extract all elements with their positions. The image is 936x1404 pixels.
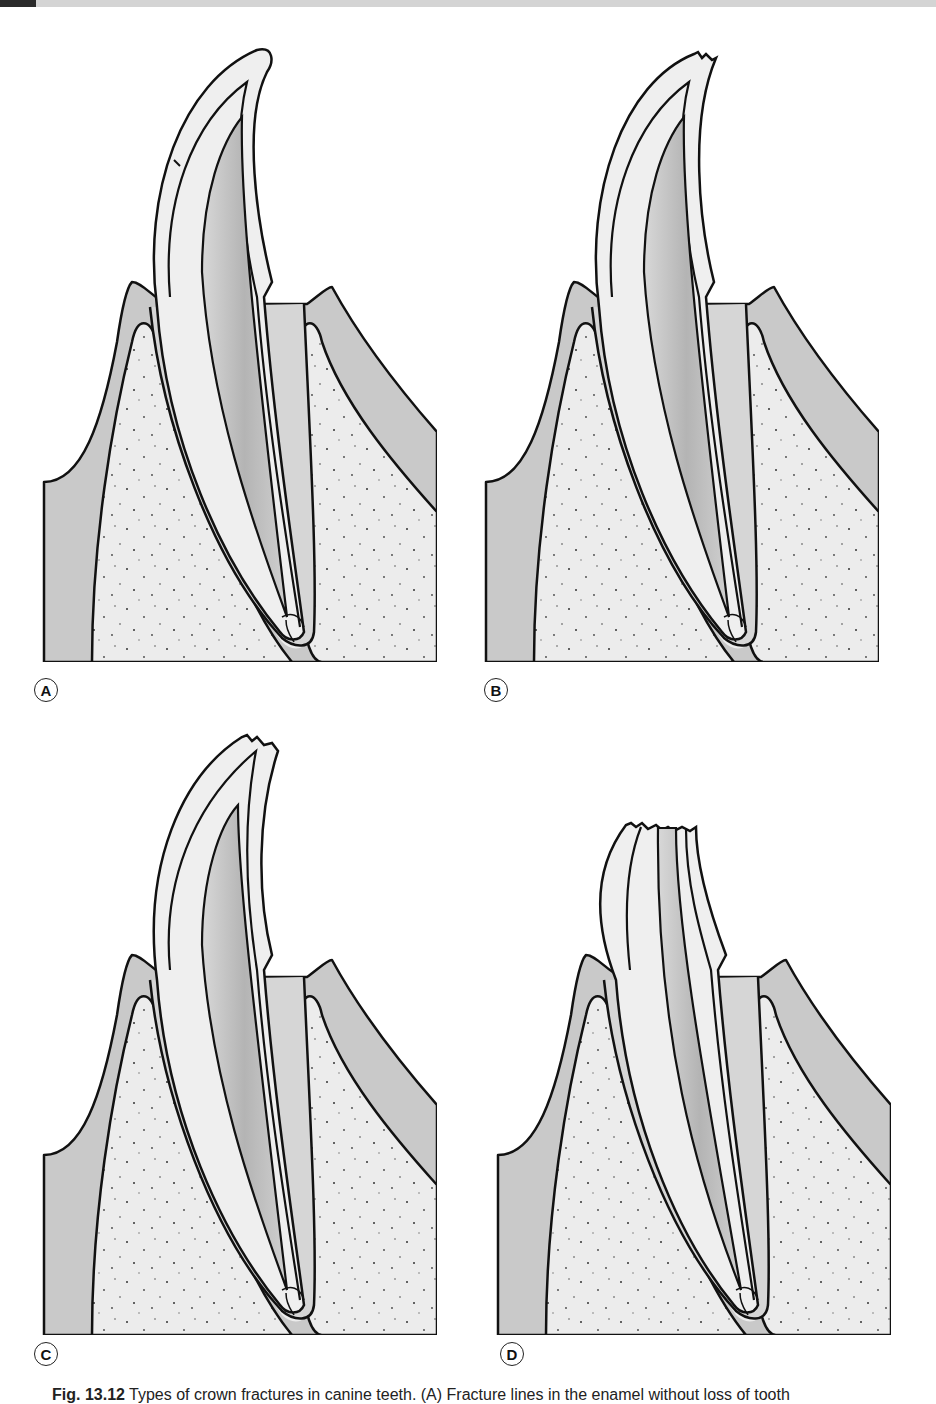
panel-label-a: A <box>34 678 58 702</box>
panel-label-d: D <box>500 1342 524 1366</box>
panel-d-illustration <box>496 715 891 1335</box>
page-header-bar <box>0 0 936 7</box>
figure-number: Fig. 13.12 <box>52 1386 125 1403</box>
panel-a-illustration <box>42 42 437 662</box>
panel-b-illustration <box>484 42 879 662</box>
tooth-diagram-b <box>484 42 879 662</box>
panel-label-b: B <box>484 678 508 702</box>
page-header-accent <box>0 0 36 7</box>
tooth-diagram-a <box>42 42 437 662</box>
panel-label-c: C <box>34 1342 58 1366</box>
figure-caption-text: Types of crown fractures in canine teeth… <box>125 1386 790 1403</box>
figure-caption: Fig. 13.12 Types of crown fractures in c… <box>52 1386 790 1404</box>
tooth-diagram-d <box>496 715 891 1335</box>
tooth-diagram-c <box>42 715 437 1335</box>
panel-c-illustration <box>42 715 437 1335</box>
